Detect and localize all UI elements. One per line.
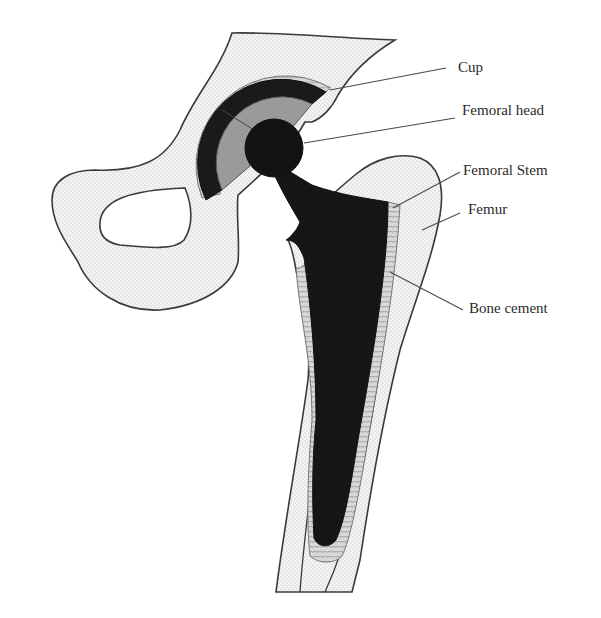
hip-prosthesis-diagram: Cup Femoral head Femoral Stem Femur Bone… [0,0,601,618]
label-bone-cement: Bone cement [469,301,548,316]
femoral-head-ball [245,119,303,177]
label-cup: Cup [458,60,483,75]
label-femoral-head: Femoral head [462,103,544,118]
label-femur: Femur [468,202,507,217]
label-femoral-stem: Femoral Stem [463,163,548,178]
